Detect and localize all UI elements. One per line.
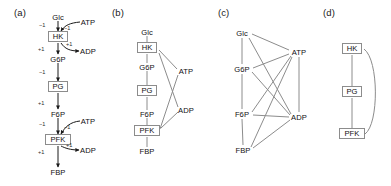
edge-pfk-atp bbox=[160, 75, 178, 129]
figure-canvas: (a) Glc G6P F6P FBP ATP ADP ATP ADP HK P… bbox=[0, 0, 391, 186]
metabolite-g6p: G6P bbox=[135, 63, 159, 72]
metabolite-atp-upper: ATP bbox=[76, 18, 100, 27]
metabolite-atp: ATP bbox=[174, 67, 198, 76]
reaction-pfk: PFK bbox=[134, 125, 160, 136]
panel-d-caption: (d) bbox=[323, 7, 335, 18]
reaction-hk: HK bbox=[137, 42, 157, 53]
coef-hk-g6p: +1 bbox=[38, 46, 44, 52]
edge-f6p-fbp bbox=[242, 119, 243, 145]
metabolite-glc: Glc bbox=[135, 28, 159, 37]
edge-fbp-adp bbox=[253, 120, 290, 148]
coef-atp-hk: −1 bbox=[64, 25, 70, 31]
edge-hk-pfk-curved bbox=[364, 49, 375, 134]
metabolite-fbp: FBP bbox=[135, 147, 159, 156]
coef-pfk-adp: +1 bbox=[66, 142, 72, 148]
reaction-pfk: PFK bbox=[339, 128, 365, 139]
metabolite-f6p: F6P bbox=[135, 110, 159, 119]
metabolite-glc: Glc bbox=[230, 29, 254, 38]
metabolite-fbp: FBP bbox=[46, 168, 70, 177]
metabolite-g6p: G6P bbox=[230, 65, 254, 74]
metabolite-adp-lower: ADP bbox=[76, 146, 100, 155]
coef-pfk-fbp: +1 bbox=[38, 149, 44, 155]
metabolite-fbp: FBP bbox=[231, 146, 255, 155]
panel-c-caption: (c) bbox=[218, 7, 229, 18]
reaction-pg: PG bbox=[342, 86, 362, 97]
edge-glc-adp bbox=[249, 38, 291, 114]
reaction-hk: HK bbox=[342, 43, 362, 54]
coef-atp-pfk: −1 bbox=[64, 124, 70, 130]
metabolite-adp: ADP bbox=[287, 113, 311, 122]
edge-f6p-adp bbox=[253, 115, 289, 117]
coef-glc-hk: −1 bbox=[39, 22, 45, 28]
edge-g6p-adp bbox=[252, 72, 290, 115]
panel-a-caption: (a) bbox=[14, 7, 26, 18]
coef-pg-f6p: +1 bbox=[38, 100, 44, 106]
figure-vector-layer bbox=[0, 0, 391, 186]
metabolite-f6p: F6P bbox=[230, 110, 254, 119]
edge-glc-atp bbox=[252, 34, 289, 50]
metabolite-adp-upper: ADP bbox=[76, 47, 100, 56]
coef-g6p-pg: −1 bbox=[39, 69, 45, 75]
metabolite-adp: ADP bbox=[174, 106, 198, 115]
reaction-pg: PG bbox=[137, 85, 157, 96]
coef-hk-adp: +1 bbox=[66, 41, 72, 47]
edge-g6p-atp bbox=[253, 54, 289, 68]
panel-b-caption: (b) bbox=[112, 7, 124, 18]
metabolite-atp: ATP bbox=[287, 48, 311, 57]
metabolite-atp-lower: ATP bbox=[76, 117, 100, 126]
metabolite-glc: Glc bbox=[46, 13, 70, 22]
reaction-pg: PG bbox=[48, 81, 68, 92]
metabolite-f6p: F6P bbox=[46, 110, 70, 119]
edge-f6p-atp bbox=[252, 56, 291, 112]
edge-hk-adp bbox=[159, 53, 178, 107]
coef-f6p-pfk: −1 bbox=[39, 121, 45, 127]
reaction-hk: HK bbox=[48, 31, 68, 42]
metabolite-g6p: G6P bbox=[46, 55, 70, 64]
edge-fbp-atp bbox=[251, 57, 292, 147]
